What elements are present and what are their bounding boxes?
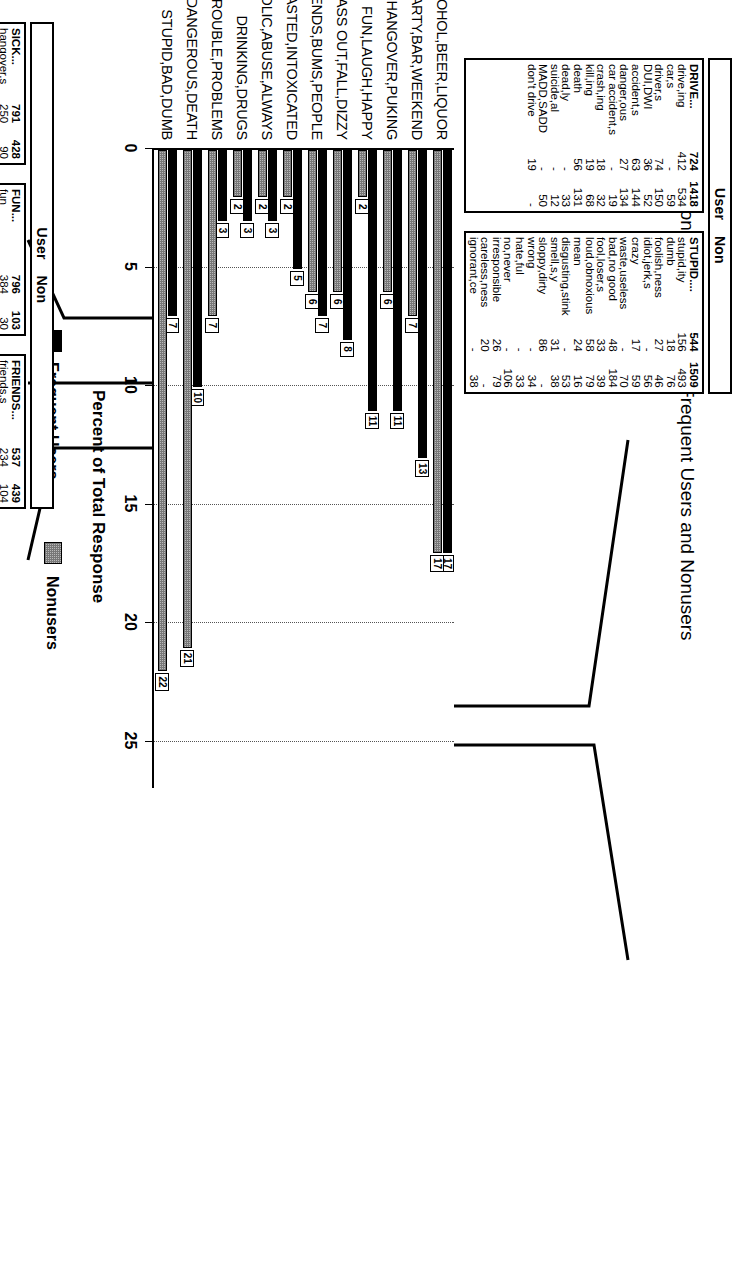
- bar-value-label-frequent-users: 3: [215, 223, 229, 238]
- table-cell-non: 1509: [687, 356, 699, 388]
- bar-frequent-users: [343, 150, 352, 340]
- table-cell-non: 439: [9, 471, 21, 503]
- table-cell-user: -: [618, 322, 630, 356]
- table-cell-non: 103: [9, 298, 21, 330]
- table-cell-label: hangover,s: [0, 28, 9, 93]
- table-cell-user: -: [537, 141, 549, 175]
- bar-value-label-nonusers: 21: [180, 650, 194, 667]
- table-cell-user: 796: [9, 264, 21, 298]
- table-cell-user: 36: [641, 141, 653, 175]
- table-cell-label: waste,useless: [618, 237, 630, 322]
- table-cell-label: accident,s: [629, 64, 641, 141]
- table-row: suicide,al-12: [548, 64, 560, 207]
- table-cell-user: -: [502, 322, 514, 356]
- bar-value-label-nonusers: 2: [255, 199, 269, 214]
- table-row: driver,s74150: [653, 64, 665, 207]
- table-row: mean2416: [571, 237, 583, 388]
- table-row: SICK...791428: [9, 28, 21, 159]
- bar-value-label-frequent-users: 10: [190, 389, 204, 406]
- table-cell-non: 53: [560, 356, 572, 388]
- table-cell-non: 76: [664, 356, 676, 388]
- plot-area: 0 5 10 15 20 25 171713711611286765232323…: [154, 148, 454, 788]
- table-cell-non: 79: [490, 356, 502, 388]
- table-cell-label: mean: [571, 237, 583, 322]
- category-label: TROUBLE,PROBLEMS: [209, 0, 225, 140]
- bar-frequent-users: [418, 150, 427, 458]
- x-tick-label: 25: [121, 724, 139, 758]
- table-cell-non: 79: [583, 356, 595, 388]
- table-cell-non: -: [479, 356, 491, 388]
- table-cell-user: 33: [595, 322, 607, 356]
- category-label: STUPID,BAD,DUMB: [159, 0, 175, 140]
- bar-frequent-users: [193, 150, 202, 387]
- table-cell-user: 412: [676, 141, 688, 175]
- table-cell-non: 46: [653, 356, 665, 388]
- table-cell-user: -: [467, 322, 479, 356]
- x-tick-label: 10: [121, 368, 139, 402]
- category-label: FUN,LAUGH,HAPPY: [359, 0, 375, 140]
- table-cell-non: 33: [560, 175, 572, 207]
- bar-value-label-frequent-users: 11: [365, 413, 379, 430]
- table-row: FRIENDS...537439: [9, 360, 21, 503]
- table-cell-label: fun: [0, 189, 9, 264]
- table-row: DRIVE...7241418: [687, 64, 699, 207]
- bar-frequent-users: [443, 150, 452, 553]
- table-row: DUI,DWI3652: [641, 64, 653, 207]
- table-cell-label: dead,ly: [560, 64, 572, 141]
- table-cell-label: DUI,DWI: [641, 64, 653, 141]
- table-cell-label: suicide,al: [548, 64, 560, 141]
- table-row: crash,ing1832: [595, 64, 607, 207]
- table-row: hate,ful-33: [514, 237, 526, 388]
- bar-value-label-frequent-users: 13: [415, 460, 429, 477]
- bar-value-label-nonusers: 7: [405, 318, 419, 333]
- legend-swatch-nonusers: [44, 542, 62, 564]
- x-tick: [145, 741, 152, 742]
- bar-value-label-nonusers: 6: [330, 294, 344, 309]
- table-cell-user: -: [606, 141, 618, 175]
- table-cell-label: STUPID....: [687, 237, 699, 322]
- table-cell-non: 134: [618, 175, 630, 207]
- gridline: [154, 741, 454, 742]
- table-cell-label: dumb: [664, 237, 676, 322]
- table-row: dumb1876: [664, 237, 676, 388]
- bar-value-label-nonusers: 2: [355, 199, 369, 214]
- table-cell-label: drive,ing: [676, 64, 688, 141]
- bar-frequent-users: [368, 150, 377, 411]
- table-row: friends,s234104: [0, 360, 9, 503]
- table-row: ignorant,ce-38: [467, 237, 479, 388]
- table-header-user: User: [712, 188, 728, 220]
- table-cell-label: crazy: [629, 237, 641, 322]
- table-cell-label: kill,ing: [583, 64, 595, 141]
- table-cell-user: 26: [490, 322, 502, 356]
- table-cell-user: -: [548, 141, 560, 175]
- table-cell-user: 544: [687, 322, 699, 356]
- table-row: death56131: [571, 64, 583, 207]
- category-label: DRIVE,DANGEROUS,DEATH: [184, 0, 200, 140]
- table-cell-user: 156: [676, 322, 688, 356]
- table-friends: FRIENDS...537439friends,s234104peer pres…: [0, 360, 21, 503]
- table-row: wrong-34: [525, 237, 537, 388]
- table-cell-user: 63: [629, 141, 641, 175]
- table-cell-non: 19: [606, 175, 618, 207]
- table-cell-label: danger,ous: [618, 64, 630, 141]
- table-cell-non: 16: [571, 356, 583, 388]
- bar-value-label-frequent-users: 7: [315, 318, 329, 333]
- table-cell-user: 18: [595, 141, 607, 175]
- table-sick: SICK...791428hangover,s25090sick,ness224…: [0, 28, 21, 159]
- table-cell-user: 27: [653, 322, 665, 356]
- table-cell-non: 33: [514, 356, 526, 388]
- table-cell-label: bad,no good: [606, 237, 618, 322]
- table-cell-non: 38: [548, 356, 560, 388]
- table-cell-non: 144: [629, 175, 641, 207]
- table-cell-user: 20: [479, 322, 491, 356]
- x-tick: [145, 385, 152, 386]
- table-cell-non: 150: [653, 175, 665, 207]
- table-cell-non: 59: [629, 356, 641, 388]
- table-cell-user: 86: [537, 322, 549, 356]
- detail-table-fun: FUN...796103fun38430happy,ness52-great,e…: [0, 183, 26, 336]
- table-row: crazy1759: [629, 237, 641, 388]
- x-tick: [145, 148, 152, 149]
- table-cell-label: careless,ness: [479, 237, 491, 322]
- table-cell-user: 31: [548, 322, 560, 356]
- table-cell-non: 493: [676, 356, 688, 388]
